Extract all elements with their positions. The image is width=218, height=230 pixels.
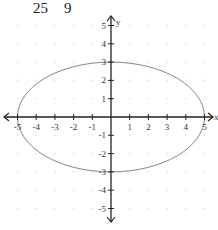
y-tick-label: 3 [102,57,107,67]
grid-dot [54,43,56,45]
y-axis-label: y [116,17,121,27]
grid-dot [166,25,168,27]
grid-dot [185,208,187,210]
grid-dot [185,171,187,173]
grid-dot [73,25,75,27]
grid-dot [148,208,150,210]
grid-dot [54,98,56,100]
grid-dot [204,208,206,210]
grid-dot [204,153,206,155]
y-tick-label: 1 [102,94,107,104]
grid-dot [35,98,37,100]
grid-dot [35,43,37,45]
grid-dot [166,43,168,45]
grid-dot [166,153,168,155]
grid-dot [148,171,150,173]
grid-dot [129,153,131,155]
grid-dot [92,153,94,155]
grid-dot [92,135,94,137]
grid-dot [185,98,187,100]
grid-dot [17,189,19,191]
grid-dot [148,98,150,100]
grid-dot [54,208,56,210]
y-tick-label: -1 [99,130,107,140]
y-tick-label: -2 [99,149,107,159]
y-tick-label: 2 [102,75,107,85]
grid-dot [17,135,19,137]
grid-dot [166,189,168,191]
grid-dot [148,153,150,155]
x-tick-label: -4 [32,122,40,132]
grid-dot [148,43,150,45]
grid-dot [92,208,94,210]
grid-dot [129,208,131,210]
grid-dot [204,43,206,45]
grid-dot [129,135,131,137]
grid-dot [35,171,37,173]
grid-dot [129,98,131,100]
grid-dot [35,208,37,210]
grid-dot [148,80,150,82]
grid-dot [17,25,19,27]
grid-dot [185,61,187,63]
grid-dot [204,80,206,82]
grid-dot [204,189,206,191]
grid-dot [54,153,56,155]
grid-dot [204,61,206,63]
grid-dot [204,25,206,27]
y-tick-label: -5 [99,204,107,214]
grid-dot [54,80,56,82]
grid-dot [166,135,168,137]
y-tick-label: -3 [99,167,107,177]
grid-dot [35,189,37,191]
x-tick-label: 4 [184,122,189,132]
grid-dot [54,135,56,137]
grid-dot [17,208,19,210]
x-tick-label: -1 [89,122,97,132]
grid-dot [185,43,187,45]
grid-dot [73,80,75,82]
grid-dot [73,189,75,191]
grid-dot [73,61,75,63]
grid-dot [166,98,168,100]
grid-dot [166,61,168,63]
grid-dot [73,153,75,155]
grid-dot [54,61,56,63]
grid-dot [92,189,94,191]
y-tick-label: 5 [102,21,107,31]
grid-dot [54,189,56,191]
grid-dot [92,43,94,45]
grid-dot [148,135,150,137]
x-tick-label: 1 [127,122,132,132]
grid-dot [129,43,131,45]
grid-dot [148,25,150,27]
grid-dot [204,135,206,137]
grid-dot [17,43,19,45]
grid-dot [17,171,19,173]
x-tick-label: -5 [14,122,22,132]
y-tick-label: -4 [99,185,107,195]
grid-dot [35,25,37,27]
grid-dot [148,189,150,191]
x-tick-label: -2 [70,122,78,132]
grid-dot [73,171,75,173]
grid-dot [92,25,94,27]
grid-dot [35,135,37,137]
grid-dot [35,61,37,63]
grid-dot [129,189,131,191]
grid-dot [54,25,56,27]
grid-dot [166,171,168,173]
grid-dot [73,208,75,210]
x-axis-label: x [214,112,218,122]
grid-dot [185,153,187,155]
grid-dot [185,25,187,27]
grid-dot [35,80,37,82]
grid-dot [73,135,75,137]
x-tick-label: 5 [202,122,207,132]
grid-dot [17,153,19,155]
grid-dot [166,80,168,82]
grid-dot [35,153,37,155]
grid-dot [129,80,131,82]
grid-dot [129,25,131,27]
grid-dot [204,98,206,100]
